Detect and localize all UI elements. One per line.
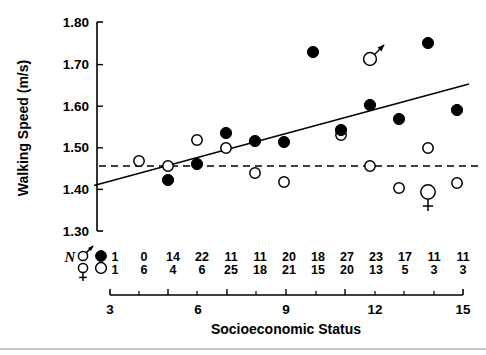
- n-table-female-row: 1 6 4 6 25 18 21 15 20 13 5 3 3: [112, 263, 467, 277]
- legend-marker-female: [96, 263, 107, 274]
- n-female-cell: 5: [402, 263, 409, 277]
- n-male-cell: 11: [427, 250, 440, 264]
- n-male-cell: 14: [166, 250, 180, 264]
- y-tick-label-1.70: 1.70: [63, 57, 89, 72]
- x-tick-label-6: 6: [194, 302, 202, 317]
- data-point-male: [307, 46, 318, 57]
- legend-female: [78, 263, 106, 281]
- n-male-cell: 17: [398, 250, 412, 264]
- data-point-female: [423, 143, 433, 153]
- x-tick-label-3: 3: [106, 302, 114, 317]
- data-point-female-annotated-large: [421, 185, 435, 199]
- data-point-female: [365, 161, 375, 171]
- x-axis: [110, 289, 463, 295]
- data-point-female: [163, 161, 173, 171]
- data-point-female: [394, 183, 404, 193]
- n-male-cell: 0: [141, 250, 148, 264]
- data-point-male: [451, 104, 462, 115]
- data-point-male: [393, 113, 404, 124]
- mars-icon: [78, 251, 87, 260]
- n-male-cell: 1: [112, 250, 119, 264]
- n-male-cell: 20: [282, 250, 296, 264]
- data-point-female: [221, 143, 231, 153]
- n-male-cell: 11: [224, 250, 237, 264]
- scatter-plot-figure: 1.80 1.70 1.60 1.50 1.40 1.30 Walking Sp…: [0, 0, 486, 355]
- data-point-male: [220, 127, 231, 138]
- n-female-cell: 3: [431, 263, 438, 277]
- n-male-cell: 22: [195, 250, 209, 264]
- n-female-cell: 6: [199, 263, 206, 277]
- data-point-female: [250, 168, 260, 178]
- n-male-cell: 27: [340, 250, 354, 264]
- mars-symbol-annotation: [375, 45, 385, 55]
- data-point-male: [191, 158, 202, 169]
- data-point-male: [249, 135, 260, 146]
- n-female-cell: 1: [112, 263, 119, 277]
- y-axis-title: Walking Speed (m/s): [15, 60, 31, 196]
- y-tick-label-1.40: 1.40: [63, 182, 89, 197]
- n-table-male-row: 1 0 14 22 11 11 20 18 27 23 17 11 11: [112, 250, 470, 264]
- y-axis: [97, 22, 103, 231]
- n-female-cell: 25: [224, 263, 238, 277]
- y-tick-label-1.60: 1.60: [63, 99, 89, 114]
- n-female-cell: 18: [253, 263, 267, 277]
- male-data-series: [162, 37, 462, 185]
- data-point-female: [279, 177, 289, 187]
- y-tick-label-1.80: 1.80: [63, 15, 89, 30]
- n-female-cell: 13: [369, 263, 383, 277]
- legend-marker-male: [96, 251, 107, 262]
- data-point-female: [134, 156, 144, 166]
- data-point-female-annotated: [364, 53, 377, 66]
- n-male-cell: 11: [456, 250, 469, 264]
- x-tick-label-12: 12: [367, 302, 382, 317]
- data-point-male: [364, 99, 375, 110]
- n-female-cell: 20: [340, 263, 354, 277]
- x-axis-title: Socioeconomic Status: [211, 321, 361, 337]
- n-male-cell: 23: [369, 250, 383, 264]
- data-point-male: [422, 37, 433, 48]
- x-tick-label-9: 9: [282, 302, 290, 317]
- chart-canvas: 1.80 1.70 1.60 1.50 1.40 1.30 Walking Sp…: [0, 0, 486, 355]
- y-tick-label-1.50: 1.50: [63, 140, 89, 155]
- data-point-male: [278, 136, 289, 147]
- n-female-cell: 21: [282, 263, 296, 277]
- venus-icon: [78, 263, 87, 272]
- n-female-cell: 15: [311, 263, 325, 277]
- data-point-male: [162, 174, 173, 185]
- legend-male: [78, 245, 106, 261]
- data-point-female: [452, 178, 462, 188]
- n-male-cell: 18: [311, 250, 325, 264]
- n-male-cell: 11: [253, 250, 266, 264]
- n-female-cell: 4: [170, 263, 177, 277]
- y-tick-label-1.30: 1.30: [63, 224, 89, 239]
- data-point-male: [335, 124, 346, 135]
- data-point-female: [192, 135, 202, 145]
- venus-symbol-annotation: [421, 185, 435, 211]
- x-tick-label-15: 15: [455, 302, 471, 317]
- n-table-row-label: N: [64, 249, 77, 265]
- n-female-cell: 3: [460, 263, 467, 277]
- trend-line-solid: [94, 84, 469, 186]
- n-female-cell: 6: [141, 263, 148, 277]
